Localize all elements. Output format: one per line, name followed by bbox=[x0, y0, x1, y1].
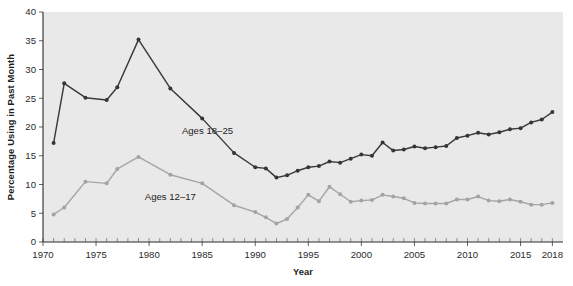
data-point bbox=[296, 169, 300, 173]
data-point bbox=[306, 193, 310, 197]
data-point bbox=[264, 166, 268, 170]
data-point bbox=[487, 199, 491, 203]
y-tick-label: 20 bbox=[25, 121, 36, 132]
x-tick-label: 2015 bbox=[510, 249, 531, 260]
data-point bbox=[497, 199, 501, 203]
y-tick-label: 15 bbox=[25, 150, 36, 161]
data-point bbox=[338, 192, 342, 196]
data-point bbox=[306, 165, 310, 169]
data-point bbox=[423, 146, 427, 150]
data-point bbox=[550, 110, 554, 114]
y-tick-label: 30 bbox=[25, 64, 36, 75]
data-point bbox=[359, 199, 363, 203]
data-point bbox=[274, 176, 278, 180]
data-point bbox=[497, 130, 501, 134]
x-tick-label: 1985 bbox=[192, 249, 213, 260]
data-point bbox=[434, 201, 438, 205]
x-tick-label: 2010 bbox=[457, 249, 478, 260]
data-point bbox=[105, 181, 109, 185]
data-point bbox=[529, 203, 533, 207]
data-point bbox=[476, 195, 480, 199]
x-tick-label: 1975 bbox=[85, 249, 106, 260]
data-point bbox=[519, 200, 523, 204]
data-point bbox=[168, 173, 172, 177]
data-point bbox=[540, 118, 544, 122]
x-tick-label: 2018 bbox=[542, 249, 563, 260]
data-point bbox=[83, 96, 87, 100]
y-tick-label: 0 bbox=[31, 236, 36, 247]
plot-area-background bbox=[43, 12, 563, 242]
data-point bbox=[137, 38, 141, 42]
data-point bbox=[253, 210, 257, 214]
x-axis-title: Year bbox=[293, 266, 313, 277]
series-label-ages-18-25: Ages 18–25 bbox=[182, 125, 233, 136]
data-point bbox=[455, 136, 459, 140]
data-point bbox=[487, 132, 491, 136]
chart-figure: 0510152025303540 19701975198019851990199… bbox=[0, 0, 573, 286]
x-tick-label: 2000 bbox=[351, 249, 372, 260]
x-tick-label: 1995 bbox=[298, 249, 319, 260]
y-tick-label: 25 bbox=[25, 93, 36, 104]
data-point bbox=[200, 181, 204, 185]
y-tick-label: 40 bbox=[25, 6, 36, 17]
data-point bbox=[274, 222, 278, 226]
data-point bbox=[550, 201, 554, 205]
data-point bbox=[423, 201, 427, 205]
data-point bbox=[232, 203, 236, 207]
data-point bbox=[264, 215, 268, 219]
data-point bbox=[317, 164, 321, 168]
y-tick-label: 5 bbox=[31, 208, 36, 219]
data-point bbox=[381, 141, 385, 145]
data-point bbox=[540, 203, 544, 207]
data-point bbox=[391, 195, 395, 199]
data-point bbox=[434, 145, 438, 149]
data-point bbox=[328, 185, 332, 189]
data-point bbox=[381, 193, 385, 197]
data-point bbox=[105, 98, 109, 102]
data-point bbox=[391, 149, 395, 153]
data-point bbox=[137, 155, 141, 159]
y-axis-title: Percentage Using in Past Month bbox=[5, 54, 16, 200]
data-point bbox=[370, 198, 374, 202]
x-tick-label: 1980 bbox=[138, 249, 159, 260]
data-point bbox=[115, 85, 119, 89]
data-point bbox=[519, 126, 523, 130]
x-tick-label: 1970 bbox=[32, 249, 53, 260]
data-point bbox=[115, 167, 119, 171]
x-tick-label: 1990 bbox=[245, 249, 266, 260]
data-point bbox=[412, 145, 416, 149]
data-point bbox=[168, 86, 172, 90]
data-point bbox=[338, 161, 342, 165]
data-point bbox=[62, 206, 66, 210]
data-point bbox=[285, 173, 289, 177]
data-point bbox=[359, 153, 363, 157]
data-point bbox=[52, 212, 56, 216]
data-point bbox=[465, 197, 469, 201]
y-tick-label: 35 bbox=[25, 35, 36, 46]
data-point bbox=[285, 217, 289, 221]
data-point bbox=[508, 197, 512, 201]
data-point bbox=[476, 131, 480, 135]
data-point bbox=[52, 141, 56, 145]
data-point bbox=[529, 120, 533, 124]
data-point bbox=[465, 134, 469, 138]
data-point bbox=[296, 206, 300, 210]
data-point bbox=[83, 180, 87, 184]
data-point bbox=[349, 157, 353, 161]
data-point bbox=[62, 81, 66, 85]
data-point bbox=[253, 165, 257, 169]
data-point bbox=[349, 200, 353, 204]
data-point bbox=[455, 197, 459, 201]
series-label-ages-12-17: Ages 12–17 bbox=[145, 191, 196, 202]
data-point bbox=[444, 201, 448, 205]
data-point bbox=[402, 196, 406, 200]
data-point bbox=[508, 127, 512, 131]
data-point bbox=[317, 199, 321, 203]
x-tick-label: 2005 bbox=[404, 249, 425, 260]
data-point bbox=[370, 154, 374, 158]
data-point bbox=[444, 144, 448, 148]
data-point bbox=[412, 201, 416, 205]
data-point bbox=[328, 160, 332, 164]
data-point bbox=[402, 147, 406, 151]
data-point bbox=[232, 151, 236, 155]
